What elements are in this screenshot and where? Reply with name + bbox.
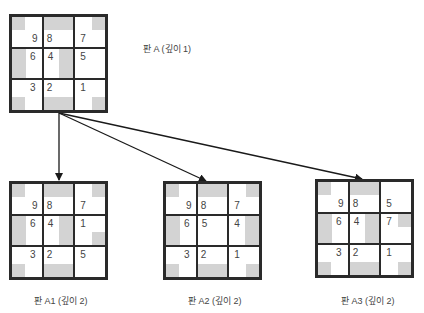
- tile-shade: [44, 264, 74, 277]
- puzzle-cell: 9: [11, 16, 43, 48]
- tile-number: 6: [336, 217, 342, 227]
- tile-number: 4: [48, 52, 54, 62]
- puzzle-cell: 1: [380, 244, 412, 276]
- puzzle-cell: 6: [11, 48, 43, 80]
- tile-shade: [350, 182, 380, 195]
- puzzle-cell: 3: [317, 244, 349, 276]
- tile-shade: [59, 216, 73, 246]
- puzzle-board-a: 987645321: [9, 14, 108, 113]
- puzzle-cell: 4: [349, 213, 381, 245]
- tile-number: 1: [386, 248, 392, 258]
- puzzle-cell: 9: [317, 181, 349, 213]
- tile-number: 7: [80, 201, 86, 211]
- tile-number: 8: [47, 201, 53, 211]
- label-board-a1: 판 A1 (깊이 2): [34, 294, 88, 307]
- tile-number: 9: [186, 201, 192, 211]
- tile-number: 9: [338, 199, 344, 209]
- puzzle-board-a1: 987641325: [9, 181, 108, 280]
- tile-number: 7: [234, 201, 240, 211]
- tile-number: 6: [184, 219, 190, 229]
- tile-number: 2: [353, 248, 359, 258]
- puzzle-cell: 5: [74, 246, 106, 278]
- puzzle-cell: 9: [11, 183, 43, 215]
- tile-shade: [166, 264, 179, 277]
- tile-number: 3: [30, 83, 36, 93]
- label-board-a2: 판 A2 (깊이 2): [188, 294, 242, 307]
- puzzle-cell: 4: [43, 48, 75, 80]
- label-board-a3: 판 A3 (깊이 2): [341, 294, 395, 307]
- tile-shade: [59, 49, 73, 79]
- tile-shade: [92, 184, 105, 197]
- puzzle-board-a3: 985647321: [315, 179, 414, 278]
- puzzle-cell: 3: [11, 246, 43, 278]
- tile-number: 2: [201, 250, 207, 260]
- puzzle-cell: 8: [349, 181, 381, 213]
- tile-shade: [318, 214, 332, 244]
- arrow-a-to-a3: [59, 113, 362, 179]
- puzzle-cell: 6: [317, 213, 349, 245]
- tile-shade: [12, 184, 25, 197]
- tile-number: 8: [353, 199, 359, 209]
- puzzle-cell: 9: [165, 183, 197, 215]
- puzzle-board-a2: 987654321: [163, 181, 262, 280]
- tile-number: 4: [234, 219, 240, 229]
- tile-number: 3: [184, 250, 190, 260]
- puzzle-cell: 8: [43, 16, 75, 48]
- tile-shade: [92, 17, 105, 30]
- puzzle-cell: 7: [74, 16, 106, 48]
- tile-number: 1: [80, 219, 86, 229]
- tile-shade: [92, 232, 105, 245]
- arrow-a-to-a2: [59, 113, 206, 181]
- tile-shade: [318, 182, 331, 195]
- tile-number: 4: [354, 217, 360, 227]
- tile-number: 3: [336, 248, 342, 258]
- tile-number: 5: [80, 52, 86, 62]
- puzzle-cell: 2: [43, 79, 75, 111]
- puzzle-cell: 7: [228, 183, 260, 215]
- tile-number: 7: [80, 34, 86, 44]
- tile-shade: [245, 216, 259, 246]
- tile-shade: [44, 184, 74, 197]
- puzzle-cell: 6: [165, 215, 197, 247]
- tile-number: 7: [386, 217, 392, 227]
- tile-shade: [246, 184, 259, 197]
- puzzle-cell: 2: [349, 244, 381, 276]
- tile-shade: [350, 262, 380, 275]
- puzzle-cell: 1: [228, 246, 260, 278]
- puzzle-cell: 3: [11, 79, 43, 111]
- tile-shade: [92, 97, 105, 110]
- puzzle-cell: 4: [43, 215, 75, 247]
- tile-shade: [198, 264, 228, 277]
- tile-shade: [318, 262, 331, 275]
- tile-number: 8: [47, 34, 53, 44]
- tile-shade: [44, 97, 74, 110]
- puzzle-cell: 6: [11, 215, 43, 247]
- puzzle-cell: 2: [43, 246, 75, 278]
- puzzle-cell: 8: [43, 183, 75, 215]
- tile-number: 5: [80, 250, 86, 260]
- puzzle-cell: 1: [74, 215, 106, 247]
- puzzle-cell: 8: [197, 183, 229, 215]
- tile-number: 5: [202, 219, 208, 229]
- tile-number: 5: [386, 199, 392, 209]
- tile-number: 6: [30, 52, 36, 62]
- tile-shade: [198, 184, 228, 197]
- puzzle-cell: 7: [380, 213, 412, 245]
- tile-shade: [166, 216, 180, 246]
- tile-number: 1: [234, 250, 240, 260]
- puzzle-cell: 4: [228, 215, 260, 247]
- tile-shade: [166, 184, 179, 197]
- puzzle-cell: 3: [165, 246, 197, 278]
- tile-number: 3: [30, 250, 36, 260]
- label-board-a: 판 A (깊이 1): [143, 42, 191, 55]
- tile-shade: [365, 214, 379, 244]
- tile-shade: [12, 97, 25, 110]
- tile-number: 2: [47, 250, 53, 260]
- tile-number: 4: [48, 219, 54, 229]
- tile-number: 1: [80, 83, 86, 93]
- tile-number: 6: [30, 219, 36, 229]
- puzzle-cell: 1: [74, 79, 106, 111]
- puzzle-cell: 5: [74, 48, 106, 80]
- tile-shade: [398, 214, 411, 227]
- puzzle-cell: 7: [74, 183, 106, 215]
